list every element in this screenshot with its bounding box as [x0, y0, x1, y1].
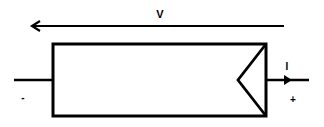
- voltage-arrow: [32, 21, 284, 31]
- component-body: [53, 44, 266, 116]
- voltage-label: V: [156, 8, 164, 20]
- negative-terminal-label: -: [21, 92, 24, 103]
- current-label: I: [286, 61, 289, 72]
- diagram-svg: V I - +: [0, 0, 324, 127]
- circuit-diagram: V I - +: [0, 0, 324, 127]
- positive-terminal-label: +: [290, 94, 296, 105]
- current-arrowhead-icon: [284, 75, 292, 85]
